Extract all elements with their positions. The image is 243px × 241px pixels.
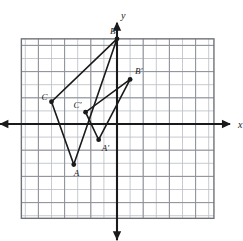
vertex-label-b-prime: B' bbox=[135, 66, 143, 76]
x-axis-label: x bbox=[237, 119, 243, 130]
vertex-label-a: A bbox=[73, 168, 80, 178]
vertex-label-b: B bbox=[110, 26, 116, 36]
plot-svg: xyABCA'B'C' bbox=[0, 0, 243, 241]
vertex-label-c: C bbox=[42, 92, 49, 102]
vertex-point-b-prime bbox=[128, 77, 133, 82]
vertex-point-a bbox=[71, 162, 76, 167]
axis-arrowhead-right bbox=[222, 120, 231, 128]
labels-layer: xyABCA'B'C' bbox=[42, 10, 243, 178]
coordinate-plane-figure: xyABCA'B'C' bbox=[0, 0, 243, 241]
y-axis-label: y bbox=[120, 10, 126, 21]
vertex-point-a-prime bbox=[96, 137, 101, 142]
vertex-point-b bbox=[115, 36, 120, 41]
axes-layer bbox=[0, 22, 231, 240]
vertex-point-c-prime bbox=[83, 110, 88, 115]
vertex-label-c-prime: C' bbox=[74, 100, 83, 110]
axis-arrowhead-left bbox=[0, 120, 8, 128]
vertex-label-a-prime: A' bbox=[101, 143, 110, 153]
axis-arrowhead-down bbox=[113, 231, 121, 240]
vertex-point-c bbox=[49, 99, 54, 104]
